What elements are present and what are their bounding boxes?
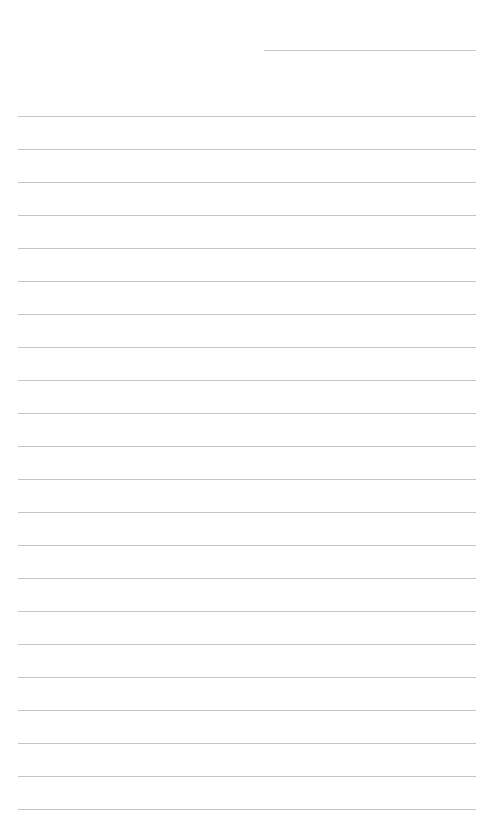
- header-rule-line: [264, 50, 476, 51]
- ruled-line: [18, 446, 476, 447]
- ruled-line: [18, 116, 476, 117]
- ruled-line: [18, 281, 476, 282]
- ruled-line: [18, 149, 476, 150]
- ruled-line: [18, 776, 476, 777]
- ruled-line: [18, 512, 476, 513]
- ruled-line: [18, 479, 476, 480]
- ruled-line: [18, 347, 476, 348]
- ruled-line: [18, 248, 476, 249]
- ruled-line: [18, 611, 476, 612]
- ruled-line: [18, 314, 476, 315]
- ruled-line: [18, 215, 476, 216]
- ruled-line: [18, 644, 476, 645]
- ruled-line: [18, 677, 476, 678]
- ruled-line: [18, 710, 476, 711]
- ruled-line: [18, 809, 476, 810]
- ruled-line: [18, 380, 476, 381]
- ruled-line: [18, 413, 476, 414]
- ruled-line: [18, 545, 476, 546]
- ruled-line: [18, 743, 476, 744]
- ruled-line: [18, 182, 476, 183]
- ruled-line: [18, 578, 476, 579]
